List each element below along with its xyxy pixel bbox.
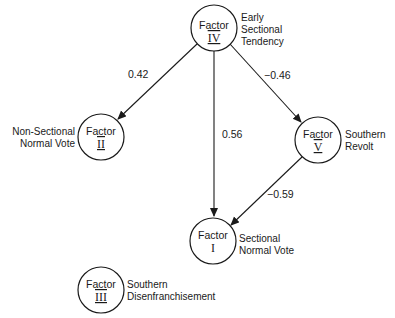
node-label-line: Non-Sectional [12,126,75,137]
node-label-line: Sectional [239,233,280,244]
node-label-line: Normal Vote [20,138,75,149]
path-diagram: 0.42 0.56 −0.46 −0.59 Factor IV Early Se… [0,0,395,318]
node-numeral: V [314,140,323,154]
node-factor-v: Factor V Southern Revolt [295,117,386,163]
node-label-line: Revolt [345,141,374,152]
node-title: Factor [86,278,116,290]
edge-iv-to-ii [118,44,197,119]
node-factor-ii: Factor II Non-Sectional Normal Vote [12,114,124,160]
node-label-line: Sectional [241,24,282,35]
node-factor-iii: Factor III Southern Disenfranchisement [78,267,216,313]
node-label-line: Southern [127,279,168,290]
node-label-line: Disenfranchisement [127,291,216,302]
node-title: Factor [199,19,229,31]
node-title: Factor [303,128,333,140]
node-title: Factor [86,125,116,137]
node-factor-i: Factor I Sectional Normal Vote [190,218,294,264]
node-label-line: Tendency [241,36,284,47]
edge-iv-to-v [230,44,301,122]
node-numeral: II [97,137,105,151]
node-factor-iv: Factor IV Early Sectional Tendency [191,5,284,51]
node-numeral: I [211,241,215,255]
node-numeral: IV [208,31,221,45]
node-label-line: Southern [345,129,386,140]
edge-weight-iv-i: 0.56 [222,128,243,140]
node-title: Factor [198,229,228,241]
edge-weight-v-i: −0.59 [267,188,294,200]
node-label-line: Early [241,12,264,23]
edge-weight-iv-v: −0.46 [264,69,291,81]
edge-weight-iv-ii: 0.42 [128,68,149,80]
node-label-line: Normal Vote [239,245,294,256]
node-numeral: III [95,290,107,304]
